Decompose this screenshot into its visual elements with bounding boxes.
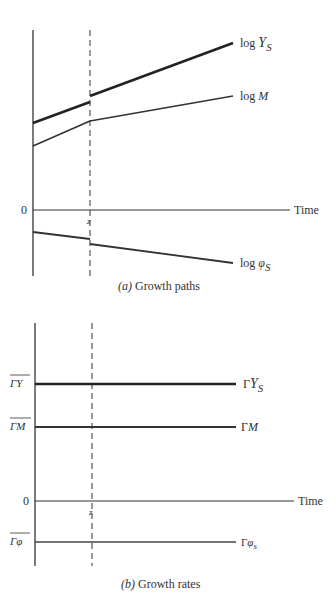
gamma-m-label: ΓM xyxy=(241,420,259,434)
panel-b-origin-label: 0 xyxy=(23,494,29,508)
log-m-path-before-switch xyxy=(33,121,90,146)
log-m-label: log M xyxy=(240,89,269,103)
panel-a-growth-paths: 0 Time z log YS log M log φS (a) Growth … xyxy=(21,30,319,293)
panel-a-caption: (a) Growth paths xyxy=(118,279,200,293)
log-phis-label: log φS xyxy=(240,256,271,273)
log-phis-path-before-switch xyxy=(33,232,90,239)
gamma-ys-label: ΓYS xyxy=(243,376,264,394)
panel-a-switch-label: z xyxy=(86,216,91,226)
panel-a-origin-label: 0 xyxy=(21,203,27,217)
growth-diagram: 0 Time z log YS log M log φS (a) Growth … xyxy=(0,0,336,604)
panel-a-time-label: Time xyxy=(294,203,319,217)
gamma-phi-bar-axis-label: Γφ xyxy=(9,535,22,547)
log-ys-path-after-switch xyxy=(90,43,233,96)
log-phis-path-after-switch xyxy=(90,244,233,263)
log-ys-path-before-switch xyxy=(33,102,90,123)
gamma-y-bar-axis-label: ΓY xyxy=(9,377,24,389)
gamma-phis-label: Γφs xyxy=(241,536,257,551)
log-m-path-after-switch xyxy=(90,96,233,121)
panel-b-time-label: Time xyxy=(298,494,323,508)
log-ys-label: log YS xyxy=(240,35,272,53)
panel-b-caption: (b) Growth rates xyxy=(121,577,201,591)
panel-b-switch-label: z xyxy=(88,507,93,517)
gamma-m-bar-axis-label: ΓM xyxy=(9,420,26,432)
panel-b-growth-rates: 0 Time z ΓY ΓYS ΓM ΓM Γφ Γφs (b) Gro xyxy=(9,323,323,591)
